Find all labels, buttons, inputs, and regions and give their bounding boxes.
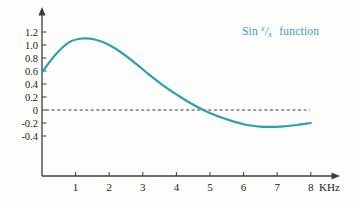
x-tick-label: 2: [106, 181, 112, 193]
y-tick-label: 1.0: [25, 40, 38, 51]
x-tick-label: 1: [73, 181, 79, 193]
y-tick-label: 0.8: [25, 53, 38, 64]
y-tick-label: 0.2: [25, 92, 38, 103]
legend-denominator: x: [268, 30, 272, 39]
y-tick-label: -0.4: [21, 131, 38, 142]
y-axis-arrow: [38, 7, 45, 16]
legend-suffix: function: [279, 25, 319, 37]
x-tick-label: 8: [308, 181, 314, 193]
y-tick-label: 0.4: [25, 79, 39, 90]
legend: Sin x/x function: [242, 24, 319, 39]
y-tick-label: 0: [33, 105, 38, 116]
x-axis-arrow: [332, 172, 341, 179]
legend-prefix: Sin: [242, 25, 258, 37]
legend-fraction: x/x: [261, 25, 272, 37]
x-tick-label: 7: [274, 181, 280, 193]
x-unit-label: KHz: [319, 181, 340, 193]
x-tick-label: 3: [140, 181, 146, 193]
x-tick-label: 5: [207, 181, 213, 193]
sinc-function-figure: 12345678KHz1.21.00.80.60.40.20-0.2-0.4 S…: [0, 0, 354, 206]
sinc-curve: [42, 38, 311, 127]
y-tick-label: -0.2: [21, 118, 38, 129]
x-tick-label: 4: [174, 181, 180, 193]
y-tick-label: 1.2: [25, 27, 38, 38]
y-tick-label: 0.6: [25, 66, 38, 77]
x-tick-label: 6: [241, 181, 247, 193]
